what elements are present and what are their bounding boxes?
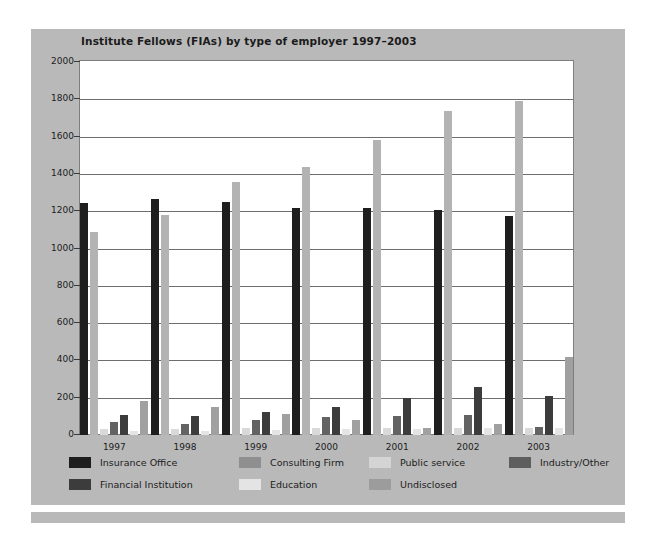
y-axis-tick-label: 2000 [51,56,74,66]
bar [262,412,270,435]
bar [272,430,280,435]
bar [181,424,189,435]
bar [403,398,411,435]
y-axis-tick-label: 1400 [51,168,74,178]
bar-group: 2001 [362,60,433,435]
bar [363,208,371,435]
legend-item-label: Consulting Firm [270,457,344,468]
y-axis-tick-label: 800 [57,280,74,290]
legend-swatch-icon [369,457,391,468]
bar [464,415,472,435]
bar [494,424,502,435]
bar [161,215,169,435]
bar-group: 2003 [503,60,574,435]
bar [525,428,533,435]
bar [252,420,260,435]
legend-item[interactable]: Financial Institution [69,477,193,491]
legend-swatch-icon [239,457,261,468]
bar [201,431,209,435]
legend-item-label: Education [270,479,317,490]
legend-item[interactable]: Undisclosed [369,477,457,491]
bar [80,203,88,435]
bar [191,416,199,435]
bar [413,429,421,435]
legend-item-label: Industry/Other [540,457,609,468]
bar [140,401,148,436]
bar [545,396,553,435]
bar [222,202,230,435]
legend-item[interactable]: Insurance Office [69,455,177,469]
bar [332,407,340,435]
legend-item-label: Public service [400,457,465,468]
y-axis-tick-label: 200 [57,392,74,402]
legend-swatch-icon [239,479,261,490]
bar [211,407,219,435]
bar [130,431,138,435]
plot-overlay: 2000180016001400120010008006004002000199… [79,60,574,435]
bar-group: 1997 [79,60,150,435]
chart-legend: Insurance OfficeConsulting FirmPublic se… [39,453,617,497]
y-axis-tick-label: 600 [57,317,74,327]
legend-item-label: Insurance Office [100,457,177,468]
legend-item[interactable]: Education [239,477,317,491]
legend-item-label: Undisclosed [400,479,457,490]
bar [352,420,360,435]
bar [393,416,401,435]
legend-item-label: Financial Institution [100,479,193,490]
bar [444,111,452,435]
bar-group: 2000 [291,60,362,435]
bar [434,210,442,435]
bar [171,429,179,435]
x-axis-tick-label: 1997 [103,442,126,452]
bar [555,428,563,435]
footer-bar [31,512,625,523]
x-axis-tick-label: 1999 [244,442,267,452]
y-axis-tick-label: 400 [57,354,74,364]
bar [515,101,523,435]
bar [302,167,310,435]
x-axis-tick-label: 2003 [527,442,550,452]
legend-item[interactable]: Public service [369,455,465,469]
legend-swatch-icon [509,457,531,468]
bar [505,216,513,435]
chart-panel: Institute Fellows (FIAs) by type of empl… [31,29,625,505]
y-axis-tick-label: 1200 [51,205,74,215]
page-title: Institute Fellows (FIAs) by type of empl… [81,35,417,47]
y-axis-tick-label: 1000 [51,243,74,253]
bar [282,414,290,435]
bar [322,417,330,435]
bar-group: 1999 [220,60,291,435]
bar-group: 2002 [433,60,504,435]
bar [383,428,391,435]
bar [454,428,462,435]
plot-area-wrapper: 2000180016001400120010008006004002000199… [79,60,574,435]
bar [292,208,300,435]
bar-group: 1998 [150,60,221,435]
x-axis-tick-label: 1998 [174,442,197,452]
legend-swatch-icon [69,479,91,490]
bar [565,357,573,435]
bar [151,199,159,435]
x-axis-tick-label: 2001 [386,442,409,452]
x-axis-tick-label: 2000 [315,442,338,452]
legend-swatch-icon [69,457,91,468]
bar [423,428,431,435]
bar [535,427,543,435]
chart-screenshot: Institute Fellows (FIAs) by type of empl… [0,0,656,543]
x-axis-tick-label: 2002 [456,442,479,452]
y-axis-tick-label: 1600 [51,131,74,141]
bar [110,422,118,435]
y-axis-tick-label: 1800 [51,93,74,103]
bar [232,182,240,435]
bar [312,428,320,435]
bar [484,428,492,435]
bar [242,428,250,435]
bar [90,232,98,435]
bar [100,429,108,435]
bar [474,387,482,435]
bar [373,140,381,435]
legend-item[interactable]: Consulting Firm [239,455,344,469]
legend-swatch-icon [369,479,391,490]
bar [120,415,128,435]
legend-item[interactable]: Industry/Other [509,455,609,469]
